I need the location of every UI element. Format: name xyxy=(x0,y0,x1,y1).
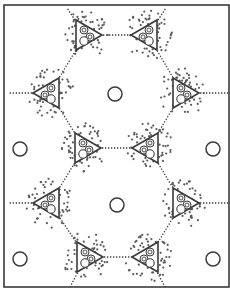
scatter-dot xyxy=(141,234,143,236)
scatter-dot xyxy=(77,126,79,128)
scatter-dot xyxy=(90,11,92,13)
scatter-dot xyxy=(133,132,135,134)
scatter-dot xyxy=(60,215,62,217)
scatter-dot xyxy=(97,130,99,132)
scatter-dot xyxy=(66,206,68,208)
scatter-dot xyxy=(188,77,190,79)
scatter-dot xyxy=(133,246,135,248)
scatter-dot xyxy=(36,102,38,104)
scatter-dot xyxy=(74,237,76,239)
scatter-dot xyxy=(178,182,180,184)
scatter-dot xyxy=(34,197,36,199)
scatter-dot xyxy=(129,26,131,28)
scatter-dot xyxy=(168,207,170,209)
scatter-dot xyxy=(176,77,178,79)
scatter-dot xyxy=(159,37,161,39)
scatter-dot xyxy=(72,13,74,15)
scatter-dot xyxy=(67,254,69,256)
scatter-dot xyxy=(167,145,169,147)
scatter-dot xyxy=(163,95,165,97)
scatter-dot xyxy=(36,218,38,220)
scatter-dot xyxy=(136,133,138,135)
scatter-dot xyxy=(39,100,41,102)
scatter-dot xyxy=(161,152,163,154)
scatter-dot xyxy=(76,239,78,241)
scatter-dot xyxy=(158,27,160,29)
scatter-dot xyxy=(162,274,164,276)
scatter-dot xyxy=(166,203,168,205)
open-circle-small xyxy=(80,37,88,45)
scatter-dot xyxy=(61,78,63,80)
scatter-dot xyxy=(62,71,64,73)
scatter-dot xyxy=(171,110,173,112)
scatter-dot xyxy=(162,160,164,162)
scatter-dot xyxy=(148,15,150,17)
scatter-dot xyxy=(146,159,148,161)
scatter-dot xyxy=(46,112,48,114)
scatter-dot xyxy=(73,249,75,251)
scatter-dot xyxy=(61,92,63,94)
scatter-dot xyxy=(188,84,190,86)
scatter-dot xyxy=(149,165,151,167)
scatter-dot xyxy=(83,125,85,127)
scatter-dot xyxy=(132,273,134,275)
scatter-dot xyxy=(160,49,162,51)
scatter-dot xyxy=(72,85,74,87)
scatter-dot xyxy=(167,188,169,190)
open-circle-small xyxy=(145,37,153,45)
scatter-dot xyxy=(33,86,35,88)
scatter-dot xyxy=(104,261,106,263)
scatter-dot xyxy=(68,85,70,87)
scatter-dot xyxy=(171,183,173,185)
scatter-dot xyxy=(89,133,91,135)
scatter-dot xyxy=(169,151,171,153)
scatter-dot xyxy=(66,79,68,81)
scatter-dot xyxy=(188,219,190,221)
scatter-dot xyxy=(144,157,146,159)
scatter-dot xyxy=(95,234,97,236)
scatter-dot xyxy=(142,246,144,248)
scatter-dot xyxy=(157,12,159,14)
scatter-dot xyxy=(197,109,199,111)
scatter-dot xyxy=(128,135,130,137)
scatter-dot xyxy=(153,54,155,56)
scatter-dot xyxy=(160,22,162,24)
scatter-dot xyxy=(104,249,106,251)
scatter-dot xyxy=(91,137,93,139)
scatter-dot xyxy=(186,72,188,74)
scatter-dot xyxy=(195,75,197,77)
open-circle xyxy=(108,87,122,101)
concentric-circle-outer xyxy=(47,84,55,92)
scatter-dot xyxy=(29,101,31,103)
scatter-dot xyxy=(199,206,201,208)
scatter-dot xyxy=(98,24,100,26)
scatter-dot xyxy=(68,27,70,29)
concentric-circle-outer xyxy=(146,139,154,147)
scatter-dot xyxy=(33,88,35,90)
scatter-dot xyxy=(43,192,45,194)
scatter-dot xyxy=(142,123,144,125)
scatter-dot xyxy=(167,41,169,43)
scatter-dot xyxy=(98,268,100,270)
scatter-dot xyxy=(140,24,142,26)
scatter-dot xyxy=(88,236,90,238)
scatter-dot xyxy=(204,207,206,209)
open-circle-small xyxy=(146,259,154,267)
scatter-dot xyxy=(160,132,162,134)
scatter-dot xyxy=(183,183,185,185)
scatter-dot xyxy=(139,235,141,237)
scatter-dot xyxy=(95,240,97,242)
scatter-dot xyxy=(100,140,102,142)
scatter-dot xyxy=(67,201,69,203)
open-circle xyxy=(110,198,124,212)
scatter-dot xyxy=(47,178,49,180)
scatter-dot xyxy=(167,132,169,134)
scatter-dot xyxy=(83,16,85,18)
scatter-dot xyxy=(72,141,74,143)
scatter-dot xyxy=(189,211,191,213)
scatter-dot xyxy=(190,217,192,219)
scatter-dot xyxy=(77,18,79,20)
open-circle-small xyxy=(177,205,185,213)
scatter-dot xyxy=(184,212,186,214)
scatter-dot xyxy=(144,137,146,139)
